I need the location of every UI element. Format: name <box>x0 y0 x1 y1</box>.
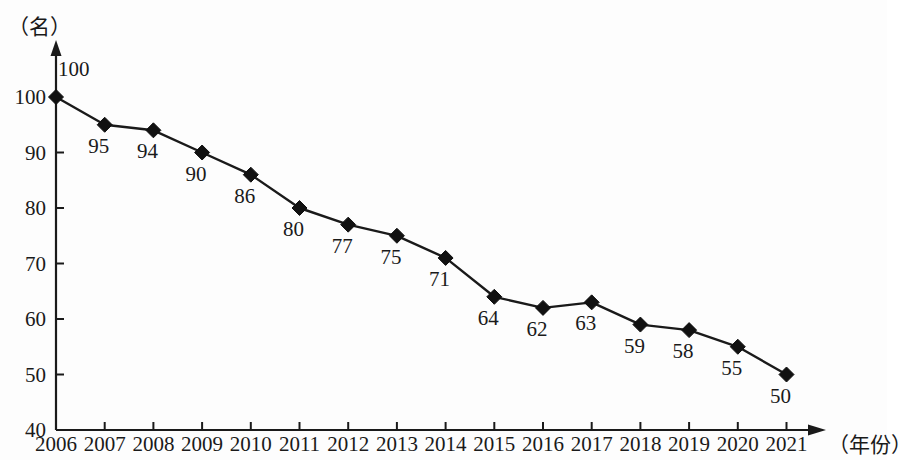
data-point-marker <box>682 323 697 338</box>
x-axis-tick-label: 2009 <box>174 432 230 457</box>
x-axis-tick-label: 2018 <box>612 432 668 457</box>
data-point-marker <box>341 217 356 232</box>
x-axis-tick-label: 2006 <box>28 432 84 457</box>
data-point-label: 94 <box>127 139 167 164</box>
y-axis-tick-label: 50 <box>6 362 46 387</box>
x-axis-tick-label: 2011 <box>272 432 328 457</box>
x-axis-tick-label: 2017 <box>564 432 620 457</box>
data-point-label: 71 <box>420 267 460 292</box>
data-point-label: 62 <box>517 317 557 342</box>
data-point-label: 95 <box>79 134 119 159</box>
y-axis-arrowhead <box>51 40 62 56</box>
data-point-label: 77 <box>322 234 362 259</box>
data-point-label: 64 <box>468 306 508 331</box>
x-axis-tick-label: 2020 <box>710 432 766 457</box>
y-axis-tick-label: 70 <box>6 251 46 276</box>
data-point-marker <box>389 228 404 243</box>
data-point-label: 75 <box>371 245 411 270</box>
data-point-marker <box>779 367 794 382</box>
data-point-label: 59 <box>614 334 654 359</box>
x-axis-tick-label: 2016 <box>515 432 571 457</box>
x-axis-tick-label: 2019 <box>661 432 717 457</box>
data-point-marker <box>536 300 551 315</box>
x-axis-tick-label: 2007 <box>77 432 133 457</box>
y-axis-tick-label: 60 <box>6 307 46 332</box>
data-point-marker <box>243 167 258 182</box>
data-point-label: 50 <box>761 384 801 409</box>
data-point-label: 86 <box>225 184 265 209</box>
data-point-label: 55 <box>712 356 752 381</box>
data-point-marker <box>633 317 648 332</box>
data-point-marker <box>584 295 599 310</box>
data-point-marker <box>97 117 112 132</box>
y-axis-tick-label: 80 <box>6 196 46 221</box>
x-axis-tick-label: 2010 <box>223 432 279 457</box>
data-point-marker <box>49 90 64 105</box>
data-point-label: 90 <box>176 162 216 187</box>
y-axis-tick-label: 100 <box>6 85 46 110</box>
y-axis-tick-label: 90 <box>6 140 46 165</box>
x-axis-tick-label: 2012 <box>320 432 376 457</box>
axes <box>51 40 827 436</box>
x-axis-tick-label: 2021 <box>759 432 815 457</box>
data-point-label: 63 <box>566 311 606 336</box>
data-point-marker <box>730 339 745 354</box>
x-axis-tick-label: 2013 <box>369 432 425 457</box>
x-axis-tick-label: 2008 <box>125 432 181 457</box>
x-axis-tick-label: 2015 <box>466 432 522 457</box>
data-point-marker <box>146 123 161 138</box>
data-point-marker <box>292 201 307 216</box>
data-point-label: 100 <box>58 57 98 82</box>
x-axis-tick-label: 2014 <box>418 432 474 457</box>
data-point-label: 80 <box>274 217 314 242</box>
data-point-marker <box>195 145 210 160</box>
data-point-label: 58 <box>663 339 703 364</box>
